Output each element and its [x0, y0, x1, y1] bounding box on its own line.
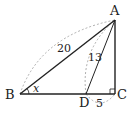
label-dc-length: 5 — [96, 97, 103, 110]
label-point-b: B — [5, 87, 15, 102]
label-ab-length: 20 — [57, 42, 71, 55]
label-point-d: D — [79, 95, 89, 110]
label-point-c: C — [117, 87, 127, 102]
triangle-diagram: A B C D 20 13 5 x — [0, 0, 131, 117]
right-angle-marker — [110, 89, 115, 94]
label-point-a: A — [109, 3, 120, 18]
label-angle-x: x — [33, 82, 40, 95]
angle-arc-b — [27, 89, 29, 95]
label-ad-length: 13 — [88, 51, 102, 64]
